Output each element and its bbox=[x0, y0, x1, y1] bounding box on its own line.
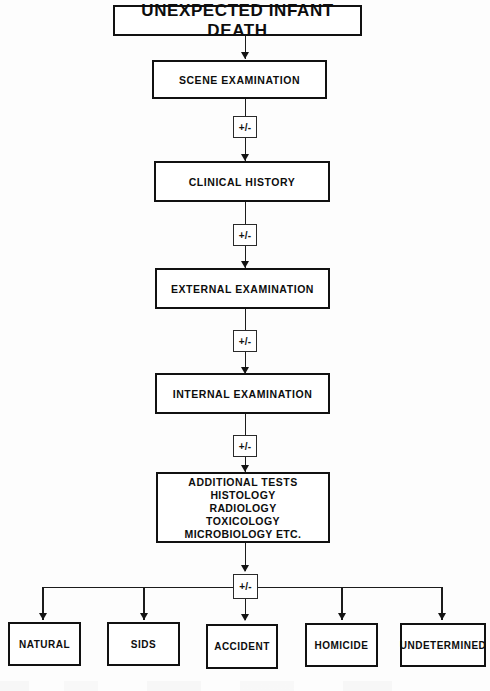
arrowhead-decision-1-to-clinical bbox=[241, 154, 249, 161]
additional-tests-list: ADDITIONAL TESTS HISTOLOGY RADIOLOGY TOX… bbox=[185, 474, 302, 542]
decision-box-5: +/- bbox=[233, 574, 258, 599]
additional-tests-item-histology: HISTOLOGY bbox=[185, 489, 302, 502]
scan-artifact bbox=[0, 681, 490, 691]
node-clinical-history: CLINICAL HISTORY bbox=[154, 161, 330, 202]
arrowhead-bus-to-natural bbox=[39, 613, 47, 620]
arrowhead-bus-to-sids bbox=[140, 613, 148, 620]
additional-tests-heading: ADDITIONAL TESTS bbox=[185, 476, 302, 489]
node-external-examination: EXTERNAL EXAMINATION bbox=[155, 268, 330, 309]
connector-external-to-decision-3 bbox=[245, 309, 246, 330]
node-outcome-natural: NATURAL bbox=[8, 622, 81, 666]
bus-line-left bbox=[43, 587, 233, 588]
decision-label: +/- bbox=[239, 122, 252, 133]
node-label: UNDETERMINED bbox=[400, 640, 487, 651]
node-outcome-undetermined: UNDETERMINED bbox=[400, 623, 486, 667]
node-label: SCENE EXAMINATION bbox=[179, 74, 300, 86]
node-outcome-accident: ACCIDENT bbox=[206, 624, 278, 669]
node-label: SIDS bbox=[131, 639, 156, 650]
node-label: HOMICIDE bbox=[315, 640, 369, 651]
node-outcome-homicide: HOMICIDE bbox=[305, 623, 378, 667]
arrowhead-bus-to-accident bbox=[241, 614, 249, 621]
decision-label: +/- bbox=[239, 441, 252, 452]
node-outcome-sids: SIDS bbox=[107, 622, 180, 666]
flowchart-canvas: UNEXPECTED INFANT DEATH SCENE EXAMINATIO… bbox=[0, 0, 490, 691]
connector-scene-to-decision-1 bbox=[245, 99, 246, 116]
arrowhead-bus-to-undetermined bbox=[438, 613, 446, 620]
decision-label: +/- bbox=[239, 230, 252, 241]
bus-line-right bbox=[258, 587, 442, 588]
arrowhead-bus-to-homicide bbox=[338, 613, 346, 620]
node-label: UNEXPECTED INFANT DEATH bbox=[115, 1, 360, 41]
decision-label: +/- bbox=[239, 581, 252, 592]
connector-clinical-to-decision-2 bbox=[245, 202, 246, 224]
additional-tests-item-radiology: RADIOLOGY bbox=[185, 502, 302, 515]
decision-label: +/- bbox=[239, 336, 252, 347]
node-label: CLINICAL HISTORY bbox=[189, 176, 296, 188]
node-additional-tests: ADDITIONAL TESTS HISTOLOGY RADIOLOGY TOX… bbox=[156, 472, 330, 543]
decision-box-2: +/- bbox=[233, 224, 257, 246]
node-unexpected-infant-death: UNEXPECTED INFANT DEATH bbox=[113, 5, 362, 36]
arrowhead-title-to-scene bbox=[241, 52, 249, 59]
arrowhead-decision-4-to-tests bbox=[241, 465, 249, 472]
arrowhead-decision-2-to-external bbox=[241, 261, 249, 268]
node-label: NATURAL bbox=[19, 639, 70, 650]
connector-internal-to-decision-4 bbox=[245, 414, 246, 435]
node-label: EXTERNAL EXAMINATION bbox=[171, 283, 314, 295]
arrowhead-tests-to-decision-5 bbox=[241, 565, 249, 572]
node-label: INTERNAL EXAMINATION bbox=[173, 388, 313, 400]
decision-box-1: +/- bbox=[233, 116, 257, 138]
decision-box-4: +/- bbox=[233, 435, 257, 457]
additional-tests-item-microbiology: MICROBIOLOGY ETC. bbox=[185, 528, 302, 541]
node-internal-examination: INTERNAL EXAMINATION bbox=[155, 373, 330, 414]
decision-box-3: +/- bbox=[233, 330, 257, 352]
additional-tests-item-toxicology: TOXICOLOGY bbox=[185, 515, 302, 528]
node-label: ACCIDENT bbox=[214, 641, 270, 652]
node-scene-examination: SCENE EXAMINATION bbox=[152, 60, 327, 99]
